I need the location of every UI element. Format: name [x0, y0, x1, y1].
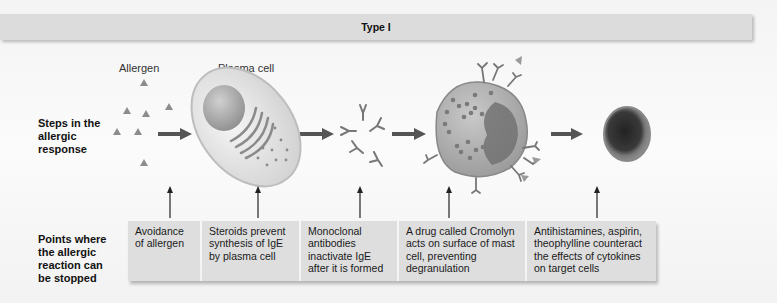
ige-antibodies-icon — [341, 105, 384, 166]
intervention-box-antihistamines: Antihistamines, aspirin, theophylline co… — [527, 221, 656, 281]
allergen-triangles-icon — [113, 79, 173, 166]
intervention-box-cromolyn: A drug called Cromolyn acts on surface o… — [399, 221, 525, 281]
intervention-arrows — [167, 186, 600, 218]
intervention-box-monoclonal: Monoclonal antibodies inactivate IgE aft… — [301, 221, 397, 281]
intervention-text: Avoidance of allergen — [135, 225, 184, 249]
mast-cell-icon — [424, 56, 541, 193]
intervention-box-avoidance: Avoidance of allergen — [128, 221, 200, 281]
interventions-row: Avoidance of allergen Steroids prevent s… — [128, 221, 656, 281]
intervention-text: A drug called Cromolyn acts on surface o… — [406, 225, 515, 274]
intervention-text: Monoclonal antibodies inactivate IgE aft… — [308, 225, 383, 274]
target-cell-icon — [604, 107, 650, 161]
plasma-cell-icon — [169, 47, 323, 208]
intervention-text: Antihistamines, aspirin, theophylline co… — [534, 225, 642, 274]
intervention-box-steroids: Steroids prevent synthesis of IgE by pla… — [202, 221, 299, 281]
intervention-text: Steroids prevent synthesis of IgE by pla… — [209, 225, 285, 262]
